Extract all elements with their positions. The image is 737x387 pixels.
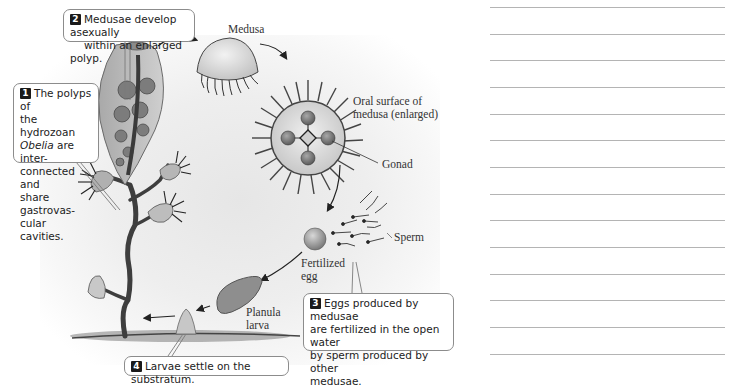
label-line: Oral surface of [353, 95, 422, 107]
step-number-badge: 2 [70, 14, 81, 25]
label-medusa: Medusa [228, 23, 264, 36]
note-line [490, 300, 725, 301]
label-oral-surface: Oral surface of medusa (enlarged) [353, 95, 438, 121]
callout-1-polyps: 1The polyps of the hydrozoan Obelia are … [13, 83, 99, 163]
diagram-stage: 1The polyps of the hydrozoan Obelia are … [0, 0, 737, 387]
enlarged-polyp [99, 42, 164, 185]
note-line [490, 327, 725, 328]
note-line [490, 60, 725, 61]
note-line [490, 114, 725, 115]
note-line [490, 220, 725, 221]
label-fertilized-egg: Fertilized egg [301, 257, 345, 283]
note-line [490, 354, 725, 355]
step-number-badge: 1 [20, 88, 31, 99]
step-number-badge: 4 [131, 361, 142, 372]
obelia-colony [105, 165, 168, 336]
callout-text: Medusae develop asexually [70, 13, 176, 38]
note-line [490, 194, 725, 195]
callout-text-italic: Obelia [20, 139, 54, 151]
callout-4-larvae-settle: 4Larvae settle on the substratum. [124, 356, 289, 376]
label-sperm: Sperm [394, 231, 424, 244]
callout-2-medusae-develop: 2Medusae develop asexually within an enl… [63, 9, 195, 42]
note-line [490, 140, 725, 141]
note-line [490, 34, 725, 35]
callout-text: Eggs produced by medusae [310, 297, 418, 322]
label-planula-larva: Planula larva [246, 306, 281, 332]
note-line [490, 87, 725, 88]
sperm-illustration [332, 191, 393, 246]
label-line: Fertilized [301, 257, 345, 269]
step-number-badge: 3 [310, 298, 321, 309]
label-line: Planula [246, 306, 281, 318]
note-line [490, 167, 725, 168]
label-line: medusa (enlarged) [353, 108, 438, 120]
callout-text: the hydrozoan [20, 113, 75, 138]
note-line [490, 274, 725, 275]
label-line: larva [246, 319, 269, 331]
label-gonad: Gonad [382, 158, 413, 171]
callout-text: medusae. [310, 375, 362, 387]
callout-text: are fertilized in the open water [310, 323, 439, 348]
note-line [490, 247, 725, 248]
label-line: egg [301, 270, 318, 282]
note-line [490, 7, 725, 8]
callout-3-eggs-fertilized: 3Eggs produced by medusae are fertilized… [303, 293, 454, 351]
